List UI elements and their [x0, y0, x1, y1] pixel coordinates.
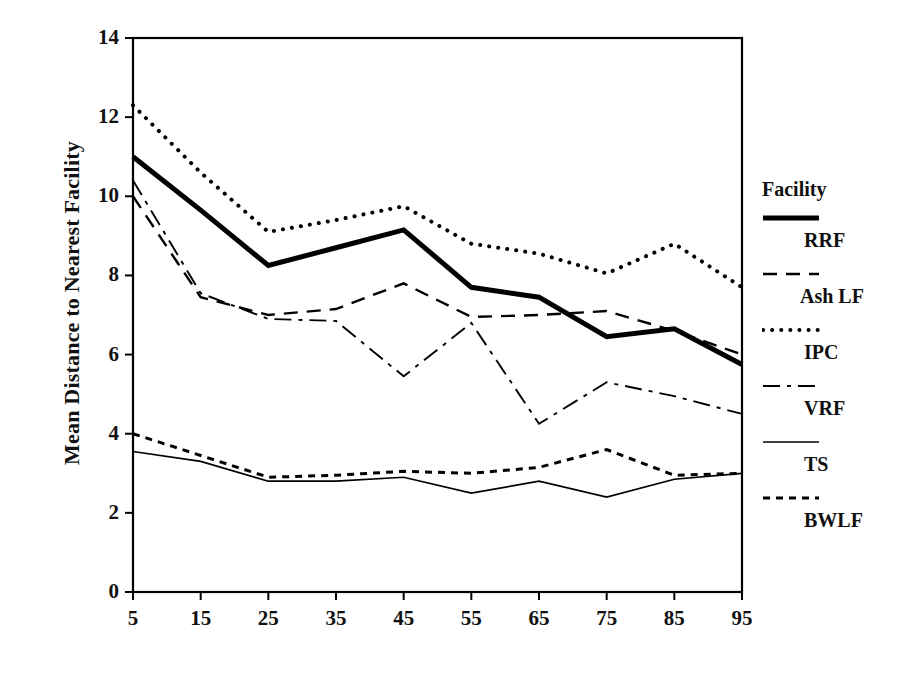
legend-entry-ipc[interactable]: IPC [760, 319, 922, 375]
legend-entry-ash-lf[interactable]: Ash LF [760, 263, 922, 319]
legend-title: Facility [760, 178, 922, 201]
series-line-bwlf [133, 434, 742, 478]
legend-entry-rrf[interactable]: RRF [760, 207, 922, 263]
legend-line-sample-dotted [762, 321, 820, 331]
legend-line-sample-dashed [762, 265, 820, 275]
legend-entry-vrf[interactable]: VRF [760, 375, 922, 431]
series-line-rrf [133, 157, 742, 365]
legend-line-sample-dash-dot [762, 377, 820, 387]
legend-label-ash-lf: Ash LF [800, 285, 864, 308]
figure-canvas: Mean Distance to Nearest Facility 024681… [0, 0, 922, 675]
legend-line-sample-thin-solid [762, 433, 820, 443]
legend-label-ts: TS [804, 453, 828, 476]
series-line-vrf [133, 180, 742, 423]
legend-label-vrf: VRF [804, 397, 845, 420]
legend-label-rrf: RRF [804, 229, 845, 252]
plot-frame [133, 38, 742, 592]
legend-line-sample-short-dash [762, 489, 820, 499]
legend-line-sample-thick-solid [762, 209, 820, 219]
series-line-ts [133, 452, 742, 498]
legend-entry-bwlf[interactable]: BWLF [760, 487, 922, 543]
legend-label-ipc: IPC [804, 341, 838, 364]
legend-label-bwlf: BWLF [804, 509, 863, 532]
legend: Facility RRFAsh LFIPCVRFTSBWLF [760, 178, 922, 543]
legend-entries: RRFAsh LFIPCVRFTSBWLF [760, 207, 922, 543]
legend-entry-ts[interactable]: TS [760, 431, 922, 487]
